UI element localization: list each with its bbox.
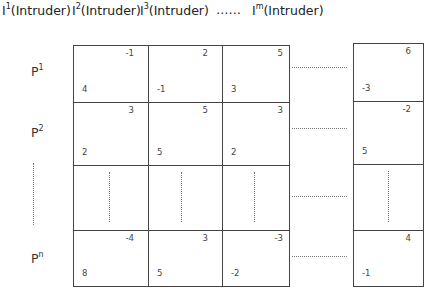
vertical-ellipsis bbox=[388, 171, 389, 222]
player-payoff: 2 bbox=[82, 147, 87, 157]
horizontal-ellipsis-rown bbox=[292, 256, 347, 257]
vertical-ellipsis bbox=[254, 172, 255, 222]
cell-pn-i2: 3 5 bbox=[148, 230, 223, 287]
intruder-payoff: 6 bbox=[406, 46, 411, 56]
vertical-ellipsis bbox=[109, 172, 110, 222]
cell-p2-i1: 3 2 bbox=[73, 102, 149, 166]
player-symbol: P bbox=[31, 64, 39, 79]
horizontal-ellipsis-row3 bbox=[292, 196, 347, 197]
intruder-label: (Intruder) bbox=[81, 3, 141, 18]
intruder-payoff: 3 bbox=[203, 233, 208, 243]
cell-ellipsis-i3 bbox=[222, 165, 290, 231]
player-payoff: -2 bbox=[231, 268, 239, 278]
horizontal-ellipsis-row2 bbox=[292, 128, 347, 129]
intruder-payoff: -4 bbox=[126, 233, 134, 243]
row-label-p1: P1 bbox=[31, 63, 44, 79]
intruder-payoff: 2 bbox=[203, 48, 208, 58]
intruder-payoff: 5 bbox=[203, 105, 208, 115]
player-payoff: 5 bbox=[157, 268, 162, 278]
player-symbol: P bbox=[31, 251, 39, 266]
header-intruder-3: I3(Intruder) bbox=[140, 2, 209, 18]
horizontal-ellipsis-row1 bbox=[292, 67, 347, 68]
cell-ellipsis-i2 bbox=[148, 165, 223, 231]
intruder-payoff: 4 bbox=[406, 233, 411, 243]
player-payoff: -1 bbox=[362, 268, 370, 278]
cell-p2-i3: 3 2 bbox=[222, 102, 290, 166]
row-label-p2: P2 bbox=[31, 124, 44, 140]
header-intruder-m: Im(Intruder) bbox=[252, 2, 324, 18]
player-payoff: 5 bbox=[157, 147, 162, 157]
player-payoff: 2 bbox=[231, 147, 236, 157]
cell-p1-im: 6 -3 bbox=[353, 43, 424, 102]
player-payoff: 5 bbox=[362, 146, 367, 156]
intruder-payoff: -2 bbox=[403, 104, 411, 114]
player-index: 1 bbox=[39, 63, 44, 72]
vertical-ellipsis bbox=[181, 172, 182, 222]
cell-pn-i3: -3 -2 bbox=[222, 230, 290, 287]
cell-p2-i2: 5 5 bbox=[148, 102, 223, 166]
intruder-payoff: 3 bbox=[129, 105, 134, 115]
cell-ellipsis-i1 bbox=[73, 165, 149, 231]
player-payoff: 4 bbox=[82, 84, 87, 94]
intruder-label: (Intruder) bbox=[149, 3, 209, 18]
cell-ellipsis-im bbox=[353, 164, 424, 231]
intruder-label: (Intruder) bbox=[11, 3, 71, 18]
player-payoff: 8 bbox=[82, 268, 87, 278]
header-intruder-2: I2(Intruder) bbox=[72, 2, 141, 18]
cell-p1-i2: 2 -1 bbox=[148, 45, 223, 103]
cell-p1-i1: -1 4 bbox=[73, 45, 149, 103]
intruder-label: (Intruder) bbox=[263, 3, 323, 18]
intruder-payoff: -3 bbox=[275, 233, 283, 243]
intruder-payoff: -1 bbox=[126, 48, 134, 58]
header-intruder-1: I1(Intruder) bbox=[2, 2, 71, 18]
header-ellipsis: …… bbox=[216, 2, 241, 17]
cell-pn-i1: -4 8 bbox=[73, 230, 149, 287]
player-payoff: -3 bbox=[362, 83, 370, 93]
player-payoff: -1 bbox=[157, 84, 165, 94]
player-symbol: P bbox=[31, 125, 39, 140]
player-index: n bbox=[39, 250, 44, 259]
cell-p2-im: -2 5 bbox=[353, 101, 424, 165]
row-label-pn: Pn bbox=[31, 250, 44, 266]
intruder-payoff: 5 bbox=[278, 48, 283, 58]
player-index: 2 bbox=[39, 124, 44, 133]
intruder-payoff: 3 bbox=[278, 105, 283, 115]
player-payoff: 3 bbox=[231, 84, 236, 94]
cell-p1-i3: 5 3 bbox=[222, 45, 290, 103]
row-label-vertical-ellipsis bbox=[33, 163, 34, 225]
cell-pn-im: 4 -1 bbox=[353, 230, 424, 287]
